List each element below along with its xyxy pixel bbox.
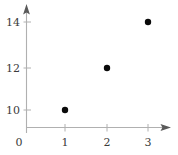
x-axis-tick-label-1: 1: [62, 137, 69, 148]
y-axis-tick-label-10: 10: [0, 105, 20, 116]
data-point: [145, 19, 151, 25]
y-axis-tick-label-12: 12: [0, 63, 20, 74]
x-axis-tick-label-2: 2: [104, 137, 111, 148]
data-point: [62, 107, 68, 113]
scatter-plot-figure: 14 12 10 0 1 2 3: [0, 0, 178, 155]
chart-canvas: [0, 0, 178, 155]
y-axis-tick-label-14: 14: [0, 17, 20, 28]
data-point: [104, 65, 110, 71]
origin-label: 0: [16, 137, 23, 148]
x-axis-tick-label-3: 3: [145, 137, 152, 148]
data-point-group: [62, 19, 151, 113]
